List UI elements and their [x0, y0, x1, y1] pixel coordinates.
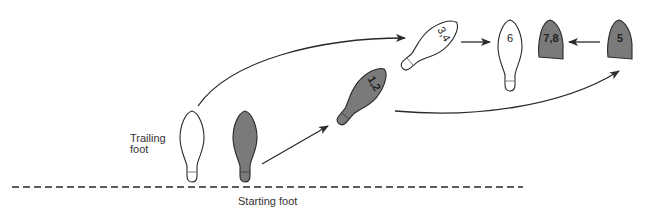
step-5-label: 5 — [617, 32, 623, 44]
step-1-2-foot-icon: 1,2 — [330, 61, 394, 131]
step-7-8-ball-icon: 7,8 — [539, 20, 563, 59]
arrow-starting-to-1-2 — [262, 126, 328, 164]
step-7-8-label: 7,8 — [543, 32, 558, 44]
step-6-foot-icon: 6 — [498, 20, 522, 91]
trailing-foot-icon — [180, 111, 204, 182]
starting-foot-label: Starting foot — [238, 196, 297, 207]
step-6-label: 6 — [507, 32, 513, 44]
trailing-foot-label-line2: foot — [130, 144, 148, 155]
diagram-canvas: 1,2 3,4 6 7,8 5 — [0, 0, 645, 214]
step-5-ball-icon: 5 — [608, 20, 632, 59]
step-3-4-foot-icon: 3,4 — [395, 13, 465, 77]
starting-foot-icon — [233, 111, 257, 182]
footwork-diagram: 1,2 3,4 6 7,8 5 — [0, 0, 645, 214]
